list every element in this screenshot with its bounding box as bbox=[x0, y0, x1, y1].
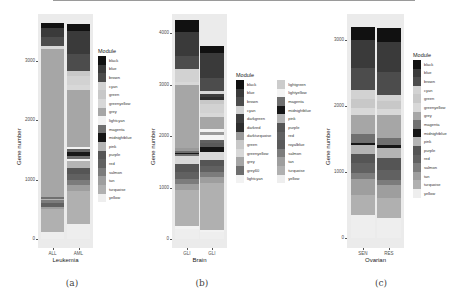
bar-segment-red bbox=[351, 163, 375, 173]
legend-item-black: black bbox=[413, 60, 447, 69]
bar-segment-pink bbox=[351, 145, 375, 154]
legend: Moduleblackbluebrowncyangreengreenyellow… bbox=[413, 52, 453, 198]
legend-title: Module bbox=[413, 52, 453, 58]
y-tick-label: 2000 bbox=[320, 103, 344, 108]
legend-label: cyan bbox=[424, 88, 432, 93]
stacked-bar-res bbox=[377, 27, 401, 238]
legend-swatch bbox=[413, 172, 421, 181]
legend-label: grey bbox=[424, 113, 432, 118]
legend-item-green: green bbox=[413, 94, 447, 103]
bar-segment-greenyellow bbox=[351, 108, 375, 115]
x-tick-label: RES bbox=[377, 251, 401, 256]
caption-c: (c) bbox=[361, 278, 401, 288]
x-axis-label: Ovarian bbox=[347, 257, 404, 263]
y-tick-mark bbox=[345, 172, 347, 173]
bar-segment-pink bbox=[377, 148, 401, 158]
legend-item-turquoise: turquoise bbox=[413, 180, 447, 189]
bar-segment-purple bbox=[377, 158, 401, 171]
bar-segment-red bbox=[377, 170, 401, 180]
legend-item-brown: brown bbox=[413, 77, 447, 86]
bar-segment-green bbox=[351, 99, 375, 108]
legend-item-red: red bbox=[413, 155, 447, 164]
legend-label: tan bbox=[424, 174, 430, 179]
y-tick-mark bbox=[345, 238, 347, 239]
bar-segment-grey bbox=[351, 115, 375, 135]
legend-label: magenta bbox=[424, 122, 440, 127]
caption-b: (b) bbox=[182, 278, 222, 288]
legend-item-blue: blue bbox=[413, 69, 447, 78]
legend-swatch bbox=[413, 155, 421, 164]
bar-segment-tan bbox=[377, 185, 401, 198]
legend-swatch bbox=[413, 137, 421, 146]
stacked-bar-sen bbox=[351, 27, 375, 238]
y-tick-label: 0 bbox=[320, 235, 344, 240]
legend-item-salmon: salmon bbox=[413, 163, 447, 172]
legend-swatch bbox=[413, 129, 421, 138]
legend-swatch bbox=[413, 69, 421, 78]
legend-item-yellow: yellow bbox=[413, 189, 447, 198]
legend-swatch bbox=[413, 77, 421, 86]
legend-label: black bbox=[424, 62, 433, 67]
bar-segment-yellow bbox=[351, 215, 375, 238]
legend-item-grey: grey bbox=[413, 112, 447, 121]
y-axis-label: Gene number bbox=[325, 128, 331, 165]
legend-swatch bbox=[413, 112, 421, 121]
legend-item-pink: pink bbox=[413, 137, 447, 146]
legend-swatch bbox=[413, 180, 421, 189]
legend-item-greenyellow: greenyellow bbox=[413, 103, 447, 112]
y-tick-label: 3000 bbox=[320, 37, 344, 42]
legend-swatch bbox=[413, 163, 421, 172]
y-tick-mark bbox=[345, 106, 347, 107]
legend-column: blackbluebrowncyangreengreenyellowgreyma… bbox=[413, 60, 447, 198]
bar-segment-turquoise bbox=[377, 198, 401, 218]
bar-segment-blue bbox=[351, 40, 375, 68]
bar-segment-yellow bbox=[377, 218, 401, 238]
legend-label: green bbox=[424, 96, 434, 101]
legend-item-purple: purple bbox=[413, 146, 447, 155]
legend-item-tan: tan bbox=[413, 172, 447, 181]
legend-swatch bbox=[413, 86, 421, 95]
bar-segment-cyan bbox=[377, 95, 401, 102]
legend-label: midnightblue bbox=[424, 131, 447, 136]
bar-segment-purple bbox=[351, 154, 375, 164]
legend-label: purple bbox=[424, 148, 435, 153]
legend-swatch bbox=[413, 120, 421, 129]
x-tick-mark bbox=[363, 248, 364, 250]
legend-swatch bbox=[413, 103, 421, 112]
bar-segment-brown bbox=[377, 72, 401, 95]
x-tick-label: SEN bbox=[351, 251, 375, 256]
bar-segment-cyan bbox=[351, 90, 375, 100]
bar-segment-black bbox=[377, 28, 401, 43]
legend-swatch bbox=[413, 60, 421, 69]
legend-swatch bbox=[413, 146, 421, 155]
bar-segment-turquoise bbox=[351, 195, 375, 215]
bar-segment-grey bbox=[377, 115, 401, 137]
legend-label: salmon bbox=[424, 165, 437, 170]
bar-segment-magenta bbox=[351, 134, 375, 141]
legend-item-cyan: cyan bbox=[413, 86, 447, 95]
bar-segment-brown bbox=[351, 68, 375, 90]
legend-label: yellow bbox=[424, 191, 435, 196]
legend-label: red bbox=[424, 156, 430, 161]
legend-swatch bbox=[413, 189, 421, 198]
bar-segment-black bbox=[351, 27, 375, 40]
legend-item-magenta: magenta bbox=[413, 120, 447, 129]
y-tick-mark bbox=[345, 40, 347, 41]
legend-swatch bbox=[413, 94, 421, 103]
caption-a: (a) bbox=[52, 278, 92, 288]
bar-segment-green bbox=[377, 101, 401, 109]
legend-label: turquoise bbox=[424, 182, 440, 187]
legend-label: pink bbox=[424, 139, 431, 144]
legend-label: blue bbox=[424, 70, 432, 75]
bar-segment-tan bbox=[351, 179, 375, 196]
legend-label: greenyellow bbox=[424, 105, 445, 110]
legend-item-midnightblue: midnightblue bbox=[413, 129, 447, 138]
x-tick-mark bbox=[389, 248, 390, 250]
chart-panel-2: SENRES0100020003000Gene numberOvarianMod… bbox=[0, 0, 468, 305]
y-tick-label: 1000 bbox=[320, 169, 344, 174]
legend-label: brown bbox=[424, 79, 435, 84]
bar-segment-magenta bbox=[377, 138, 401, 145]
bar-segment-blue bbox=[377, 42, 401, 72]
